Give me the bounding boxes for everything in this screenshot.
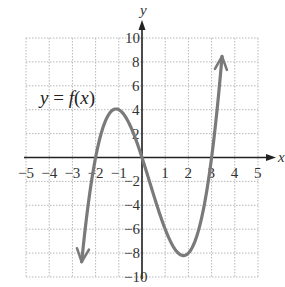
svg-text:−8: −8 (124, 245, 140, 261)
function-label: y = f(x) (38, 87, 95, 109)
svg-text:1: 1 (161, 165, 169, 181)
svg-text:4: 4 (132, 102, 140, 118)
svg-text:−5: −5 (18, 165, 34, 181)
svg-text:8: 8 (132, 54, 140, 70)
svg-text:10: 10 (125, 30, 140, 46)
function-graph: −5−4−3−2−112345108642−2−4−6−8−10 x y y =… (0, 0, 285, 287)
y-axis-label: y (138, 2, 147, 18)
x-axis-label: x (277, 149, 285, 165)
function-curve (82, 56, 222, 262)
svg-text:−10: −10 (124, 269, 147, 285)
svg-text:5: 5 (254, 165, 262, 181)
curve-end-arrows (77, 56, 227, 262)
svg-text:2: 2 (184, 165, 192, 181)
axes (24, 20, 276, 279)
svg-text:4: 4 (231, 165, 239, 181)
svg-text:−6: −6 (124, 221, 140, 237)
svg-text:−2: −2 (88, 165, 104, 181)
svg-text:6: 6 (132, 78, 140, 94)
svg-text:−3: −3 (64, 165, 80, 181)
svg-text:−2: −2 (124, 173, 140, 189)
svg-text:−4: −4 (41, 165, 57, 181)
svg-text:−4: −4 (124, 197, 140, 213)
